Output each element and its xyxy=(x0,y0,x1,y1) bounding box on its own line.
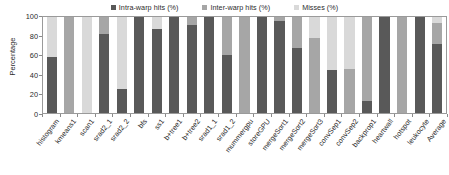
stacked-bar-chart: Intra-warp hits (%) Inter-warp hits (%) … xyxy=(0,0,449,175)
bar-segment xyxy=(152,17,162,29)
bar-backprop1[interactable] xyxy=(362,17,372,113)
bar-srad2_2[interactable] xyxy=(117,17,127,113)
bar-slot xyxy=(253,17,271,113)
y-axis-tick-mark xyxy=(39,36,42,37)
legend-item-inter: Inter-warp hits (%) xyxy=(202,3,270,12)
y-axis-tick-mark xyxy=(39,75,42,76)
bar-segment xyxy=(415,17,425,113)
legend-label-misses: Misses (%) xyxy=(302,3,338,12)
bar-segment xyxy=(274,21,284,113)
bar-slot xyxy=(288,17,306,113)
y-axis-tick-mark xyxy=(39,94,42,95)
bar-segment xyxy=(152,29,162,113)
y-axis-tick-label: 60 xyxy=(30,51,38,60)
bar-slot xyxy=(428,17,446,113)
chart-legend: Intra-warp hits (%) Inter-warp hits (%) … xyxy=(0,1,449,13)
bar-convSep1[interactable] xyxy=(327,17,337,113)
bar-segment xyxy=(99,34,109,113)
bar-segment xyxy=(257,17,267,113)
bar-segment xyxy=(222,17,232,55)
legend-label-inter: Inter-warp hits (%) xyxy=(210,3,270,12)
bar-slot xyxy=(43,17,61,113)
y-axis-tick-mark xyxy=(39,16,42,17)
bar-segment xyxy=(117,89,127,113)
bar-slot xyxy=(376,17,394,113)
bar-segment xyxy=(432,23,442,44)
bar-segment xyxy=(47,57,57,113)
bar-segment xyxy=(397,17,407,113)
bar-slot xyxy=(218,17,236,113)
bar-segment xyxy=(432,44,442,113)
bar-bfs[interactable] xyxy=(134,17,144,113)
bar-kmeans1[interactable] xyxy=(64,17,74,113)
bar-segment xyxy=(344,17,354,69)
bar-segment xyxy=(327,17,337,70)
bar-slot xyxy=(411,17,429,113)
bar-srad2_1[interactable] xyxy=(99,17,109,113)
bar-segment xyxy=(187,17,197,25)
bar-segment xyxy=(344,69,354,113)
legend-swatch-misses-icon xyxy=(294,5,299,10)
bar-slot xyxy=(393,17,411,113)
y-axis-tick-mark xyxy=(39,55,42,56)
y-axis-tick-label: 100 xyxy=(26,12,38,21)
bar-segment xyxy=(239,17,249,113)
bar-segment xyxy=(222,55,232,113)
bar-segment xyxy=(204,17,214,113)
bar-slot xyxy=(183,17,201,113)
bar-slot xyxy=(131,17,149,113)
bar-segment xyxy=(292,17,302,48)
bar-storeGPU[interactable] xyxy=(257,17,267,113)
bar-slot xyxy=(96,17,114,113)
y-axis-tick-mark xyxy=(39,114,42,115)
bar-segment xyxy=(362,101,372,113)
legend-label-intra: Intra-warp hits (%) xyxy=(119,3,179,12)
legend-swatch-inter-icon xyxy=(202,5,207,10)
bar-mummergpu[interactable] xyxy=(239,17,249,113)
bar-slot xyxy=(323,17,341,113)
bar-b+tree1[interactable] xyxy=(169,17,179,113)
bar-slot xyxy=(358,17,376,113)
bar-srad1_2[interactable] xyxy=(222,17,232,113)
bar-ss1[interactable] xyxy=(152,17,162,113)
bar-Average[interactable] xyxy=(432,17,442,113)
bar-histogram[interactable] xyxy=(47,17,57,113)
bar-segment xyxy=(169,17,179,113)
bar-segment xyxy=(134,17,144,113)
bar-segment xyxy=(64,17,74,113)
bar-segment xyxy=(309,38,319,113)
x-axis-tick-label: bfs xyxy=(136,117,149,130)
bar-convSep2[interactable] xyxy=(344,17,354,113)
y-axis-tick-label: 0 xyxy=(34,110,38,119)
legend-swatch-intra-icon xyxy=(111,5,116,10)
y-axis-tick-label: 40 xyxy=(30,70,38,79)
bar-leukocyte[interactable] xyxy=(415,17,425,113)
bar-segment xyxy=(362,17,372,101)
bar-heartwall[interactable] xyxy=(379,17,389,113)
bar-slot xyxy=(61,17,79,113)
bar-segment xyxy=(47,17,57,57)
bar-slot xyxy=(148,17,166,113)
bar-segment xyxy=(99,17,109,34)
bar-slot xyxy=(113,17,131,113)
bar-b+tree2[interactable] xyxy=(187,17,197,113)
bar-slot xyxy=(341,17,359,113)
bar-segment xyxy=(292,48,302,113)
bar-slot xyxy=(306,17,324,113)
x-axis-tick-mark xyxy=(447,114,448,117)
bar-hotspot[interactable] xyxy=(397,17,407,113)
y-axis-tick-labels: 100806040200 xyxy=(18,16,38,114)
bar-slot xyxy=(166,17,184,113)
bar-scan1[interactable] xyxy=(82,17,92,113)
x-axis-tick-label: b+tree1 xyxy=(162,117,184,142)
bar-mergeSort3[interactable] xyxy=(309,17,319,113)
bar-slot xyxy=(236,17,254,113)
y-axis-title: Percentage xyxy=(8,21,17,93)
legend-item-misses: Misses (%) xyxy=(294,3,338,12)
bar-srad1_1[interactable] xyxy=(204,17,214,113)
bar-mergeSort1[interactable] xyxy=(274,17,284,113)
bar-slot xyxy=(78,17,96,113)
bar-mergeSort2[interactable] xyxy=(292,17,302,113)
y-axis-tick-label: 20 xyxy=(30,90,38,99)
bar-segment xyxy=(327,70,337,113)
